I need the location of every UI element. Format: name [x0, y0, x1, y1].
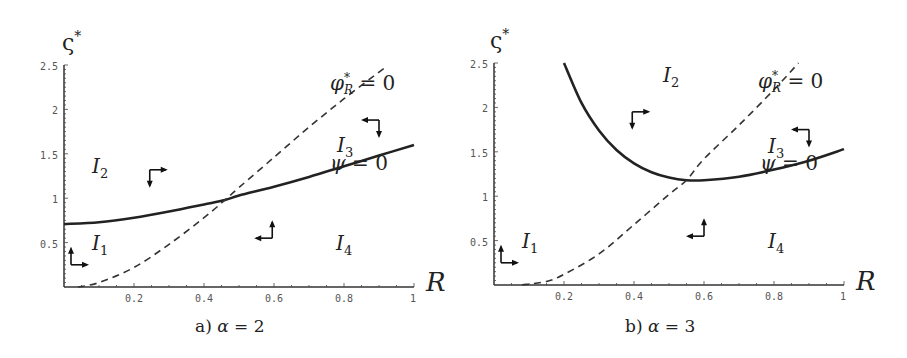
panel-a-chart: 0.5 1 1.5 2 2.5 0.2 0.4 0.6 0.8 1 ς* R I… [40, 28, 446, 336]
psi-curve-label: ψ = 0 [760, 151, 818, 175]
x-tick-label: 0.8 [335, 293, 353, 304]
axis-ticks [64, 65, 414, 287]
x-axis-title: R [425, 267, 446, 297]
panel-b-chart: 0.5 1 1.5 2 2.5 0.2 0.4 0.6 0.8 1 ς* R I… [470, 26, 876, 336]
x-tick-label: 0.8 [765, 291, 783, 302]
y-axis-title: ς* [62, 28, 81, 55]
y-axis-title: ς* [490, 26, 509, 53]
y-tick-label: 1 [482, 192, 488, 203]
y-tick-label: 2 [482, 103, 488, 114]
direction-arrows [68, 117, 382, 268]
y-tick-label: 0.5 [40, 239, 58, 250]
y-tick-label: 1 [52, 194, 58, 205]
direction-arrow-icon [68, 247, 89, 268]
x-tick-label: 0.2 [125, 293, 143, 304]
region-label-I2: I2 [662, 63, 679, 90]
x-tick-label: 0.2 [555, 291, 573, 302]
direction-arrow-icon [629, 109, 650, 130]
psi-curve-label: ψ = 0 [330, 151, 388, 175]
direction-arrow-icon [147, 167, 168, 188]
region-label-I2: I2 [91, 154, 108, 181]
y-tick-label: 0.5 [470, 237, 488, 248]
region-label-I1: I1 [521, 229, 538, 256]
y-tick-label: 2.5 [470, 59, 488, 70]
x-tick-label: 0.6 [265, 293, 283, 304]
y-tick-label: 1.5 [470, 148, 488, 159]
panel-caption: b) α = 3 [625, 316, 695, 336]
x-tick-label: 1 [410, 293, 416, 304]
x-tick-label: 1 [840, 291, 846, 302]
direction-arrow-icon [361, 117, 382, 138]
y-tick-label: 2.5 [40, 61, 58, 72]
direction-arrows [498, 109, 812, 266]
phi-curve-label: φ*R = 0 [758, 69, 823, 95]
figure: 0.5 1 1.5 2 2.5 0.2 0.4 0.6 0.8 1 ς* R I… [0, 0, 907, 358]
x-tick-label: 0.4 [625, 291, 643, 302]
direction-arrow-icon [686, 218, 707, 239]
y-tick-label: 1.5 [40, 150, 58, 161]
region-label-I4: I4 [335, 231, 352, 258]
x-tick-label: 0.6 [695, 291, 713, 302]
phi-curve-label: φ*R = 0 [330, 71, 395, 97]
y-tick-label: 2 [52, 105, 58, 116]
region-label-I1: I1 [91, 231, 108, 258]
direction-arrow-icon [254, 220, 275, 241]
panel-caption: a) α = 2 [195, 316, 265, 336]
direction-arrow-icon [791, 127, 812, 148]
direction-arrow-icon [498, 245, 519, 266]
x-tick-label: 0.4 [195, 293, 213, 304]
region-label-I4: I4 [767, 229, 784, 256]
x-axis-title: R [855, 266, 876, 296]
